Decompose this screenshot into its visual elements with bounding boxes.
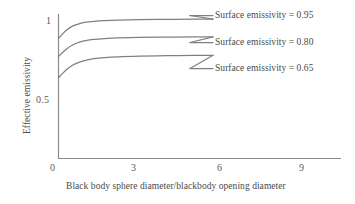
y-tick-label-1: 1 <box>46 15 51 26</box>
legend-entry-label-1: Surface emissivity = 0.80 <box>215 37 313 47</box>
x-tick-label-1: 3 <box>131 162 136 173</box>
axes <box>58 14 341 159</box>
legend-entry-label-2: Surface emissivity = 0.65 <box>215 63 313 73</box>
plot-area <box>0 0 355 204</box>
x-axis-title: Black body sphere diameter/blackbody ope… <box>66 181 286 191</box>
legend-entry-label-0: Surface emissivity = 0.95 <box>215 10 313 20</box>
chart-figure: 1 0.5 0 3 6 9 Effective emissivity Black… <box>0 0 355 204</box>
x-tick-label-3: 9 <box>299 162 304 173</box>
x-tick-label-2: 6 <box>217 162 222 173</box>
legend-sample-lines <box>190 16 213 69</box>
series-leader-2 <box>190 55 213 68</box>
series-leader-1 <box>190 37 213 43</box>
series-line-2 <box>59 55 214 78</box>
x-tick-label-0: 0 <box>50 162 55 173</box>
y-axis-title: Effective emissivity <box>22 57 32 134</box>
y-tick-label-0: 0.5 <box>36 94 49 105</box>
series-line-1 <box>59 37 214 57</box>
series-line-0 <box>59 19 214 39</box>
